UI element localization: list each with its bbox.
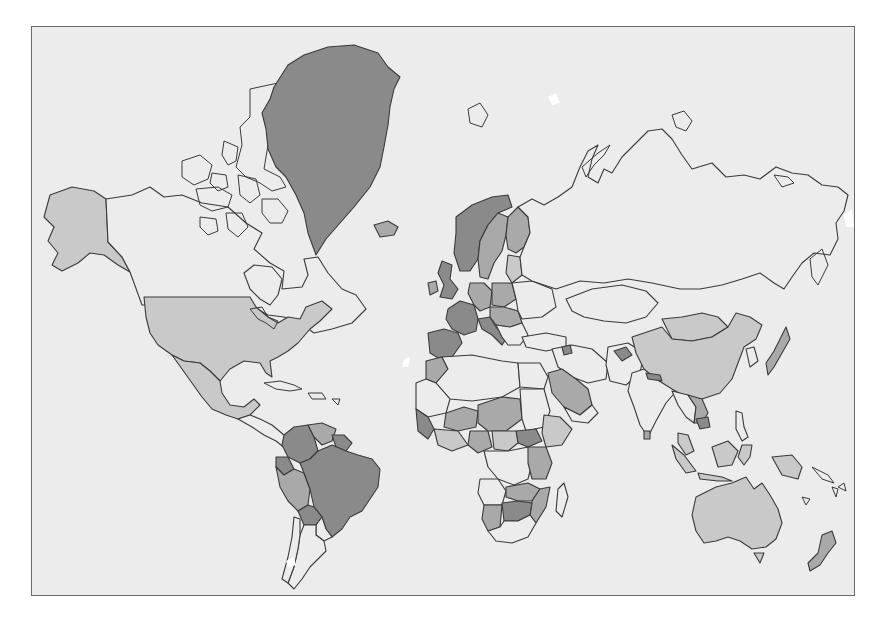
region-cambodia[interactable] [696,417,710,429]
region-iceland[interactable] [374,221,398,237]
region-ghana-coast[interactable] [434,429,468,451]
region-central-europe[interactable] [490,307,522,327]
region-sulawesi[interactable] [738,445,752,465]
region-korea[interactable] [746,347,758,367]
region-united-kingdom[interactable] [438,261,458,299]
region-russia[interactable] [518,129,848,289]
region-kazakhstan[interactable] [566,285,658,323]
region-angola[interactable] [478,479,506,505]
region-south-sudan[interactable] [516,429,542,447]
region-central-africa[interactable] [492,431,518,451]
region-ethiopia-horn[interactable] [542,415,572,447]
region-australia[interactable] [692,477,782,549]
region-baltics[interactable] [506,255,522,283]
pacific-islands [802,467,846,505]
region-egypt[interactable] [518,363,548,389]
map-frame [31,26,855,596]
region-nigeria[interactable] [468,431,492,453]
region-ireland[interactable] [428,281,438,295]
region-borneo[interactable] [712,441,738,467]
region-tasmania[interactable] [754,553,764,563]
region-spain-portugal[interactable] [428,329,462,359]
region-madagascar[interactable] [556,483,568,517]
region-algeria-libya[interactable] [436,355,520,401]
region-niger-chad[interactable] [478,397,522,431]
region-philippines[interactable] [736,411,748,441]
region-mali[interactable] [444,407,478,431]
region-armenia[interactable] [562,345,572,355]
region-sri-lanka[interactable] [644,431,650,439]
region-papua-new-guinea[interactable] [772,455,802,479]
region-france[interactable] [446,301,478,335]
region-east-africa[interactable] [528,447,552,479]
region-japan[interactable] [766,327,790,375]
caribbean-islands [264,381,340,405]
world-choropleth-map [32,27,856,597]
region-new-zealand[interactable] [808,531,836,571]
